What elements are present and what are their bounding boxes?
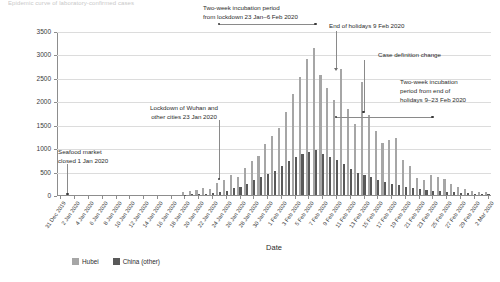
x-tick-mark (364, 196, 365, 199)
y-tick-label: 2500 (17, 75, 51, 82)
annotation-seafood-dot (66, 193, 68, 195)
bar-china-other (219, 192, 221, 195)
epidemic-curve-figure: Epidemic curve of laboratory-confirmed c… (0, 0, 500, 282)
bar-china-other (239, 187, 241, 195)
bar-china-other (350, 169, 352, 195)
y-tick-mark (54, 102, 57, 103)
annotation-case-definition-change: Case definition change (378, 51, 468, 60)
legend-item[interactable]: Hubei (72, 258, 99, 265)
annotation-lockdown-leader (219, 120, 220, 179)
x-tick-mark (391, 196, 392, 199)
x-tick-mark (184, 196, 185, 199)
bar-china-other (453, 192, 455, 195)
bar-china-other (370, 177, 372, 195)
y-tick-mark (54, 79, 57, 80)
legend-label: China (other) (123, 258, 160, 265)
bar-china-other (281, 166, 283, 195)
y-tick-label: 3500 (17, 28, 51, 35)
legend-item[interactable]: China (other) (113, 258, 160, 265)
x-tick-mark (171, 196, 172, 199)
y-tick-label: 2000 (17, 98, 51, 105)
bar-china-other (322, 154, 324, 195)
bar-china-other (246, 184, 248, 195)
x-tick-mark (157, 196, 158, 199)
x-tick-mark (474, 196, 475, 199)
bar-china-other (487, 194, 489, 195)
bar-china-other (391, 184, 393, 195)
bar-china-other (274, 171, 276, 195)
bar-china-other (267, 174, 269, 195)
bar-china-other (481, 194, 483, 195)
y-tick-mark (54, 55, 57, 56)
bar-china-other (384, 182, 386, 195)
x-tick-mark (240, 196, 241, 199)
x-tick-mark (198, 196, 199, 199)
bar-china-other (226, 191, 228, 195)
x-tick-mark (116, 196, 117, 199)
y-tick-mark (54, 173, 57, 174)
x-tick-mark (226, 196, 227, 199)
y-tick-mark (54, 196, 57, 197)
bar-china-other (439, 191, 441, 195)
annotation-end-of-holidays: End of holidays 9 Feb 2020 (329, 22, 439, 31)
annotation-holidays-arrow (334, 68, 338, 71)
x-tick-mark (143, 196, 144, 199)
x-tick-mark (212, 196, 213, 199)
bar-china-other (377, 180, 379, 195)
x-tick-mark (281, 196, 282, 199)
annotation-incubation2-dot-right (431, 116, 433, 118)
x-tick-mark (253, 196, 254, 199)
x-tick-mark (60, 196, 61, 199)
x-tick-mark (322, 196, 323, 199)
x-tick-mark (405, 196, 406, 199)
bar-china-other (474, 194, 476, 195)
y-tick-label: 500 (17, 169, 51, 176)
legend: HubeiChina (other) (72, 258, 169, 265)
bar-china-other (233, 188, 235, 195)
x-tick-mark (308, 196, 309, 199)
x-tick-mark (88, 196, 89, 199)
bar-china-other (425, 190, 427, 195)
bar-china-other (460, 193, 462, 195)
bar-china-other (288, 161, 290, 195)
bar-china-other (398, 185, 400, 195)
bar-china-other (315, 150, 317, 195)
x-tick-mark (74, 196, 75, 199)
x-tick-mark (295, 196, 296, 199)
x-tick-mark (419, 196, 420, 199)
y-axis-line (57, 32, 58, 196)
bar-china-other (446, 192, 448, 195)
y-tick-mark (54, 149, 57, 150)
annotation-seafood-leader (67, 164, 68, 194)
x-tick-mark (267, 196, 268, 199)
bar-china-other (191, 194, 193, 195)
bar-china-other (212, 193, 214, 195)
legend-swatch (72, 258, 79, 265)
annotation-incubation2-line (336, 117, 432, 118)
bar-china-other (432, 191, 434, 195)
annotation-casedef-dot (362, 111, 364, 113)
y-tick-mark (54, 126, 57, 127)
x-tick-mark (432, 196, 433, 199)
y-tick-label: 1000 (17, 145, 51, 152)
annotation-incubation1-dot-right (314, 23, 316, 25)
bar-china-other (363, 175, 365, 195)
bar-china-other (405, 187, 407, 195)
annotation-holidays-leader (336, 31, 337, 68)
x-tick-mark (102, 196, 103, 199)
bar-china-other (253, 180, 255, 195)
bar-china-other (301, 154, 303, 195)
gridline (57, 32, 491, 33)
y-tick-label: 0 (17, 192, 51, 199)
bar-china-other (467, 193, 469, 195)
x-tick-mark (336, 196, 337, 199)
bar-china-other (260, 177, 262, 195)
bar-china-other (357, 173, 359, 195)
bar-china-other (308, 152, 310, 195)
annotation-incubation-holidays: Two-week incubation period from end of h… (400, 78, 492, 105)
x-tick-mark (377, 196, 378, 199)
x-tick-mark (446, 196, 447, 199)
x-tick-mark (460, 196, 461, 199)
bar-china-other (412, 188, 414, 195)
legend-swatch (113, 258, 120, 265)
